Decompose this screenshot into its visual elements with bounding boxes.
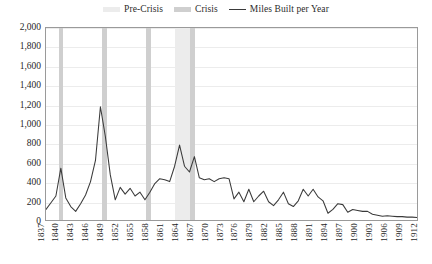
y-axis-tick-label: 2,000 [20,22,41,32]
x-axis-tick-label: 1870 [200,223,210,242]
y-axis-tick-label: 1,000 [20,119,41,129]
legend-swatch-pre-crisis-icon [103,7,120,12]
legend-item-crisis: Crisis [174,4,218,14]
x-axis-tick-label: 1912 [409,223,419,242]
legend-line-miles-built-icon [229,9,246,10]
x-axis-tick-label: 1906 [379,223,389,242]
plot-area [45,27,418,221]
x-axis-tick-label: 1900 [349,223,359,242]
x-axis-tick-label: 1876 [229,223,239,242]
series-miles-built-per-year [46,28,417,220]
x-axis-tick-label: 1882 [259,223,269,242]
y-axis-tick-label: 1,600 [20,61,41,71]
x-axis-tick-label: 1879 [244,223,254,242]
x-axis-tick-label: 1837 [36,223,46,242]
chart-legend: Pre-Crisis Crisis Miles Built per Year [0,4,432,14]
x-axis-tick-label: 1903 [364,223,374,242]
x-axis-tick-label: 1891 [304,223,314,242]
x-axis-tick-label: 1843 [65,223,75,242]
legend-label-miles-built: Miles Built per Year [250,4,329,14]
x-axis-tick-label: 1888 [289,223,299,242]
x-axis-tick-label: 1858 [140,223,150,242]
y-axis-tick-label: 200 [27,197,41,207]
y-axis-tick-label: 1,400 [20,80,41,90]
legend-item-pre-crisis: Pre-Crisis [103,4,163,14]
legend-label-crisis: Crisis [195,4,218,14]
x-axis-tick-label: 1855 [125,223,135,242]
legend-swatch-crisis-icon [174,7,191,12]
x-axis-tick-label: 1852 [110,223,120,242]
x-axis-tick-label: 1873 [215,223,225,242]
x-axis-tick-label: 1885 [274,223,284,242]
y-axis-tick-label: 600 [27,158,41,168]
x-axis-tick-label: 1894 [319,223,329,242]
y-axis-tick-label: 1,200 [20,100,41,110]
x-axis-tick-label: 1897 [334,223,344,242]
x-axis-tick-label: 1840 [50,223,60,242]
x-axis-tick-label: 1867 [185,223,195,242]
x-axis-tick-label: 1909 [394,223,404,242]
x-axis-tick-label: 1864 [170,223,180,242]
x-axis: 1837184018431846184918521855185818611864… [45,223,418,264]
y-axis: 02004006008001,0001,2001,4001,6001,8002,… [0,27,41,221]
y-axis-tick-label: 1,800 [20,41,41,51]
chart-container: Pre-Crisis Crisis Miles Built per Year 0… [0,0,432,264]
y-axis-tick-label: 400 [27,177,41,187]
y-axis-tick-label: 800 [27,138,41,148]
x-axis-tick-label: 1861 [155,223,165,242]
x-axis-tick-label: 1846 [80,223,90,242]
x-axis-tick-label: 1849 [95,223,105,242]
legend-item-miles-built: Miles Built per Year [229,4,329,14]
legend-label-pre-crisis: Pre-Crisis [124,4,163,14]
